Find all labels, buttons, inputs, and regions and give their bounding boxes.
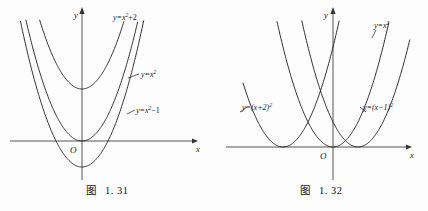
leader-line-y-equals-x2: [372, 30, 376, 38]
y-axis-arrowhead: [330, 7, 335, 14]
x-axis-arrowhead: [192, 138, 198, 143]
x-axis-label: x: [195, 144, 200, 154]
y-axis-arrowhead: [79, 7, 84, 14]
curve-label-y-equals-x-minus-1-squared: y=(x−1)2: [362, 102, 393, 112]
curve-y-equals-x-plus-2-squared: [243, 21, 339, 147]
plot-svg-1-32: y=(x+2)2 y=x2 y=(x−1)2 y x O: [214, 0, 428, 182]
curve-label-y-equals-x2: y=x2: [140, 69, 157, 79]
x-axis-arrowhead: [406, 144, 412, 149]
plot-svg-1-31: y=x2+2 y=x2 y=x2−1 y x O: [0, 0, 214, 182]
leader-line-y-equals-x2: [128, 74, 139, 78]
leader-line-y-equals-x2-minus-1: [127, 110, 135, 114]
figure-1-31: y=x2+2 y=x2 y=x2−1 y x O 图1. 31: [0, 0, 214, 211]
caption-number: 1. 32: [319, 185, 343, 196]
curve-label-y-equals-x2-plus-2: y=x2+2: [112, 12, 137, 22]
x-axis-label: x: [409, 150, 414, 160]
origin-label: O: [320, 151, 327, 161]
caption-word: 图: [300, 185, 311, 196]
curve-label-y-equals-x2-minus-1: y=x2−1: [135, 105, 160, 115]
axes-group-right: [226, 7, 412, 180]
figure-1-32: y=(x+2)2 y=x2 y=(x−1)2 y x O 图1. 32: [214, 0, 428, 211]
caption-number: 1. 31: [105, 185, 129, 196]
curve-y-equals-x-minus-1-squared: [302, 21, 410, 147]
curve-label-y-equals-x-plus-2-squared: y=(x+2)2: [241, 102, 272, 112]
y-axis-label: y: [73, 10, 78, 20]
figure-caption-1-31: 图1. 31: [0, 182, 214, 197]
plot-area-1-31: y=x2+2 y=x2 y=x2−1 y x O: [0, 0, 214, 182]
curves-group-right: [243, 21, 410, 147]
origin-label: O: [70, 145, 77, 155]
plot-area-1-32: y=(x+2)2 y=x2 y=(x−1)2 y x O: [214, 0, 428, 182]
figure-caption-1-32: 图1. 32: [214, 182, 428, 197]
y-axis-label: y: [323, 10, 328, 20]
figure-sheet: y=x2+2 y=x2 y=x2−1 y x O 图1. 31: [0, 0, 428, 211]
caption-word: 图: [86, 185, 97, 196]
leader-lines-right: [240, 30, 376, 112]
